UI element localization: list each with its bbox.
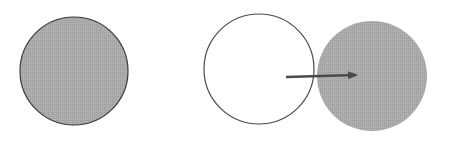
- diagram-canvas: [0, 0, 449, 144]
- middle-hollow-circle: [204, 14, 314, 124]
- left-filled-circle: [20, 17, 128, 125]
